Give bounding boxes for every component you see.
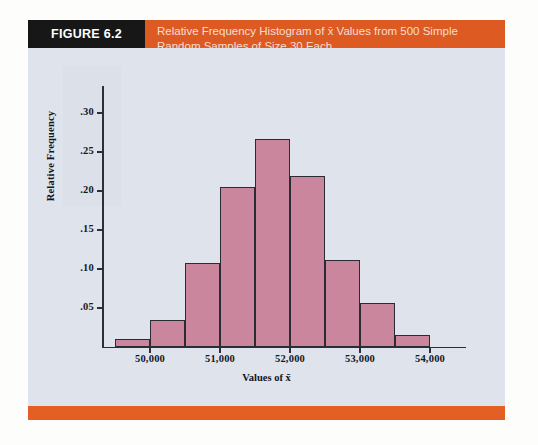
y-axis-tick-label: .10 <box>70 262 94 273</box>
y-axis-tick <box>97 229 104 230</box>
figure-title-line-2-text: Random Samples of Size 30 Each <box>157 40 332 49</box>
histogram-bar <box>325 260 360 347</box>
y-axis-tick <box>97 268 104 269</box>
figure-title-line-2: Random Samples of Size 30 Each <box>157 39 495 49</box>
histogram-bar <box>255 139 290 347</box>
chart-panel: Relative Frequency Values of x̄ .05.10.1… <box>28 48 505 406</box>
figure-header: FIGURE 6.2 Relative Frequency Histogram … <box>28 20 505 48</box>
figure-number-label: FIGURE 6.2 <box>28 20 145 48</box>
y-axis-tick-label: .20 <box>70 184 94 195</box>
x-axis-tick-label: 53,000 <box>345 353 375 364</box>
histogram-bar <box>290 176 325 347</box>
histogram-bar <box>360 303 395 347</box>
histogram-bar <box>395 335 430 347</box>
y-axis-tick <box>97 151 104 152</box>
y-axis-line <box>102 86 103 349</box>
x-axis-title: Values of x̄ <box>28 372 505 383</box>
figure-number-text: FIGURE 6.2 <box>51 27 122 41</box>
figure-title-line-1: Relative Frequency Histogram of x̄ Value… <box>157 24 495 39</box>
figure-container: FIGURE 6.2 Relative Frequency Histogram … <box>0 0 538 445</box>
y-axis-title-text: Relative Frequency <box>45 111 56 202</box>
figure-footer-rule <box>28 406 505 420</box>
y-axis-tick <box>97 190 104 191</box>
y-axis-tick <box>97 307 104 308</box>
histogram-bar <box>220 187 255 347</box>
x-axis-tick-label: 52,000 <box>275 353 305 364</box>
histogram-bar <box>150 320 185 347</box>
histogram-plot: Relative Frequency Values of x̄ .05.10.1… <box>28 48 505 406</box>
histogram-bar <box>115 339 150 347</box>
y-axis-tick-label: .30 <box>70 106 94 117</box>
y-axis-tick-label: .05 <box>70 301 94 312</box>
x-axis-tick-label: 51,000 <box>205 353 235 364</box>
y-axis-tick-label: .25 <box>70 145 94 156</box>
x-axis-title-text: Values of x̄ <box>242 372 291 383</box>
figure-title-bar: Relative Frequency Histogram of x̄ Value… <box>145 20 505 48</box>
y-axis-title: Relative Frequency <box>42 71 58 241</box>
y-axis-tick-label: .15 <box>70 223 94 234</box>
x-axis-tick-label: 50,000 <box>135 353 165 364</box>
y-axis-tick <box>97 112 104 113</box>
figure-title-line-1-text: Relative Frequency Histogram of x̄ Value… <box>157 25 458 37</box>
histogram-bar <box>185 263 220 347</box>
x-axis-tick-label: 54,000 <box>415 353 445 364</box>
